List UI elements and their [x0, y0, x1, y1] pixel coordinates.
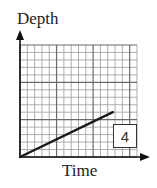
graph-number-box: 4: [113, 124, 137, 148]
x-axis-label: Time: [62, 161, 97, 181]
y-axis-arrow-icon: [16, 30, 24, 40]
x-axis-arrow-icon: [140, 153, 150, 161]
y-axis-label: Depth: [17, 9, 59, 29]
